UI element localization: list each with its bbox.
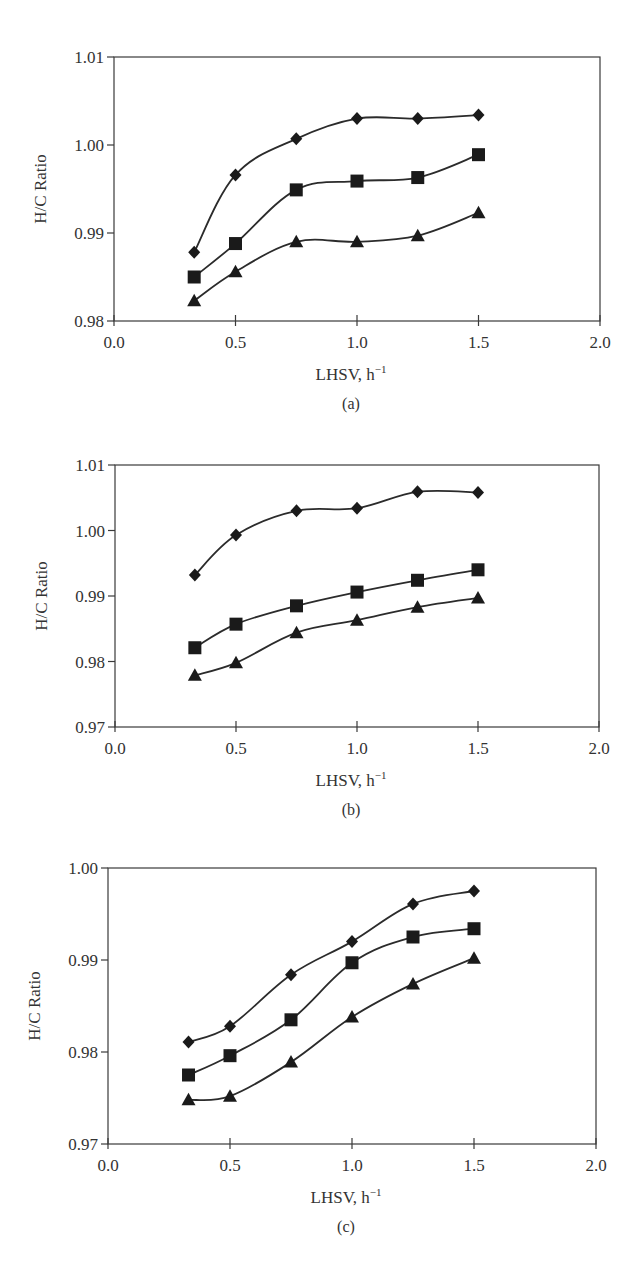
x-axis-label-superscript: −1 xyxy=(370,1186,382,1198)
x-tick-label: 0.5 xyxy=(225,739,246,758)
x-tick-label: 0.0 xyxy=(104,739,125,758)
series-triangle xyxy=(187,206,485,307)
diamond-marker-icon xyxy=(188,246,200,259)
triangle-marker-icon xyxy=(182,1093,196,1106)
panel-caption: (c) xyxy=(337,1218,355,1236)
triangle-marker-icon xyxy=(187,294,201,307)
x-tick-label: 0.5 xyxy=(225,333,246,352)
diamond-marker-icon xyxy=(346,935,358,948)
diamond-marker-icon xyxy=(183,1035,195,1048)
diamond-marker-icon xyxy=(412,112,424,125)
triangle-marker-icon xyxy=(284,1055,298,1068)
square-marker-icon xyxy=(411,171,424,184)
panel-caption: (b) xyxy=(342,801,361,819)
triangle-marker-icon xyxy=(345,1010,359,1023)
y-tick-label: 1.01 xyxy=(74,48,104,67)
triangle-marker-icon xyxy=(467,951,481,964)
square-marker-icon xyxy=(290,183,303,196)
triangle-marker-icon xyxy=(229,265,243,278)
square-marker-icon xyxy=(468,922,481,935)
plot-frame xyxy=(108,868,596,1144)
triangle-marker-icon xyxy=(406,977,420,990)
x-tick-label: 2.0 xyxy=(589,333,610,352)
y-tick-label: 0.97 xyxy=(68,1135,98,1154)
plot-frame xyxy=(114,57,600,321)
x-tick-label: 0.5 xyxy=(219,1156,240,1175)
diamond-marker-icon xyxy=(468,885,480,898)
triangle-marker-icon xyxy=(229,656,243,669)
series-triangle xyxy=(182,951,481,1105)
x-tick-label: 2.0 xyxy=(585,1156,606,1175)
series-line xyxy=(195,491,478,575)
y-tick-label: 1.00 xyxy=(74,136,104,155)
triangle-marker-icon xyxy=(471,591,485,604)
x-tick-label: 1.0 xyxy=(346,739,367,758)
square-marker-icon xyxy=(411,574,424,587)
chart-2-group: 0.970.980.991.000.00.51.01.52.0LHSV, h−1… xyxy=(25,859,607,1236)
y-axis-label: H/C Ratio xyxy=(31,154,50,223)
diamond-marker-icon xyxy=(472,486,484,499)
triangle-marker-icon xyxy=(188,668,202,681)
x-tick-label: 2.0 xyxy=(588,739,609,758)
square-marker-icon xyxy=(346,956,359,969)
diamond-marker-icon xyxy=(290,132,302,145)
x-tick-label: 1.5 xyxy=(467,739,488,758)
diamond-marker-icon xyxy=(412,485,424,498)
triangle-marker-icon xyxy=(350,613,364,626)
series-square xyxy=(188,148,485,283)
diamond-marker-icon xyxy=(285,968,297,981)
series-square xyxy=(182,922,480,1081)
series-line xyxy=(189,929,474,1075)
diamond-marker-icon xyxy=(473,109,485,122)
diamond-marker-icon xyxy=(351,502,363,515)
chart-panel-a: 0.980.991.001.010.00.51.01.52.0LHSV, h−1… xyxy=(0,0,639,420)
y-tick-label: 0.98 xyxy=(68,1043,98,1062)
series-diamond xyxy=(183,885,480,1049)
x-tick-label: 1.5 xyxy=(468,333,489,352)
square-marker-icon xyxy=(230,618,243,631)
diamond-marker-icon xyxy=(189,569,201,582)
triangle-marker-icon xyxy=(472,206,486,219)
square-marker-icon xyxy=(472,563,485,576)
square-marker-icon xyxy=(182,1069,195,1082)
x-axis-label: LHSV, h−1 xyxy=(316,363,387,384)
x-axis-label-superscript: −1 xyxy=(375,363,387,375)
plot-frame xyxy=(115,465,599,727)
y-tick-label: 0.98 xyxy=(75,653,105,672)
diamond-marker-icon xyxy=(230,529,242,542)
panel-caption: (a) xyxy=(342,395,360,413)
y-tick-label: 0.97 xyxy=(75,718,105,737)
triangle-marker-icon xyxy=(411,600,425,613)
series-line xyxy=(189,891,474,1042)
triangle-marker-icon xyxy=(223,1089,237,1102)
triangle-marker-icon xyxy=(290,626,304,639)
x-tick-label: 1.5 xyxy=(463,1156,484,1175)
series-line xyxy=(195,570,478,648)
y-tick-label: 1.01 xyxy=(75,456,105,475)
y-tick-label: 1.00 xyxy=(75,522,105,541)
series-triangle xyxy=(188,591,485,681)
square-marker-icon xyxy=(351,175,364,188)
series-square xyxy=(188,563,484,654)
x-tick-label: 0.0 xyxy=(103,333,124,352)
square-marker-icon xyxy=(407,931,420,944)
y-tick-label: 0.99 xyxy=(75,587,105,606)
chart-a-svg: 0.980.991.001.010.00.51.01.52.0LHSV, h−1… xyxy=(0,0,639,420)
series-diamond xyxy=(189,485,484,581)
diamond-marker-icon xyxy=(291,504,303,517)
square-marker-icon xyxy=(229,237,242,250)
y-axis-label: H/C Ratio xyxy=(25,971,44,1040)
square-marker-icon xyxy=(290,599,303,612)
series-line xyxy=(189,958,474,1100)
square-marker-icon xyxy=(472,148,485,161)
y-tick-label: 0.98 xyxy=(74,312,104,331)
diamond-marker-icon xyxy=(407,897,419,910)
x-tick-label: 0.0 xyxy=(97,1156,118,1175)
x-tick-label: 1.0 xyxy=(346,333,367,352)
square-marker-icon xyxy=(224,1049,237,1062)
chart-1-group: 0.970.980.991.001.010.00.51.01.52.0LHSV,… xyxy=(32,456,610,819)
y-axis-label: H/C Ratio xyxy=(32,561,51,630)
square-marker-icon xyxy=(285,1013,298,1026)
y-tick-label: 0.99 xyxy=(68,951,98,970)
square-marker-icon xyxy=(188,271,201,284)
